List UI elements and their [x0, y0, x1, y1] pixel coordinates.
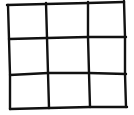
- cell-7[interactable]: [48, 73, 90, 108]
- cell-3[interactable]: [9, 38, 48, 75]
- cell-1[interactable]: [46, 3, 88, 38]
- cell-4[interactable]: [47, 37, 89, 73]
- cell-6[interactable]: [10, 73, 49, 109]
- cell-5[interactable]: [88, 37, 125, 74]
- cell-2[interactable]: [88, 2, 125, 37]
- cell-8[interactable]: [89, 73, 126, 107]
- cell-0[interactable]: [8, 4, 47, 39]
- tic-tac-toe-board: [0, 0, 134, 115]
